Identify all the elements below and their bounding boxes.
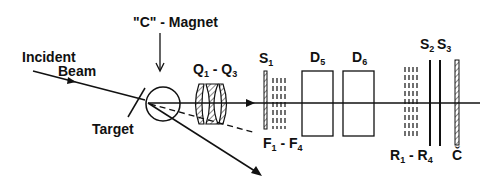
c-magnet-label: "C" - Magnet [133, 15, 218, 29]
quadrupoles [196, 84, 227, 124]
s3-label: S3 [437, 37, 451, 54]
magnet-pointer-arrow [156, 33, 164, 71]
r1-r4-label: R1 - R4 [390, 148, 433, 165]
scintillator-s1 [264, 71, 267, 129]
incident-beam-label-line1: Incident [22, 50, 76, 64]
d6-label: D6 [352, 50, 367, 67]
s1-label: S1 [259, 51, 273, 68]
f1-f4-label: F1 - F4 [263, 136, 303, 153]
incident-beam-label-line2: Beam [58, 64, 96, 78]
scintillator-s2 [429, 60, 431, 146]
target-label: Target [92, 122, 134, 136]
s2-label: S2 [420, 37, 434, 54]
scintillator-s3 [439, 60, 441, 146]
quadrupoles-label: Q1 - Q3 [193, 62, 237, 79]
d5-label: D5 [310, 50, 325, 67]
target [128, 88, 145, 117]
cherenkov-label: Č [452, 148, 462, 162]
cherenkov-counter [455, 60, 459, 145]
scattered-trajectory [148, 103, 262, 176]
